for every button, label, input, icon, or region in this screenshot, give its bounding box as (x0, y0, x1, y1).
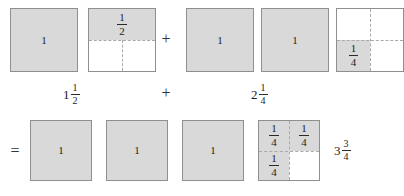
addend-2-whole: 2 (251, 88, 258, 101)
row2-square-4-shading-bottom-left (259, 151, 289, 181)
addend-1-whole: 1 (63, 88, 70, 101)
row1-square-5-shading (337, 40, 370, 71)
row1-square-4-shading (262, 9, 328, 71)
equals-operator: = (8, 144, 22, 158)
row2-square-4: 1 4 1 4 1 4 (258, 120, 320, 181)
addend-1-fraction: 1 2 (71, 83, 80, 106)
row2-square-2: 1 (106, 120, 168, 181)
row2-square-1: 1 (30, 120, 92, 181)
row1-square-1: 1 (10, 8, 78, 72)
row1-square-2: 1 2 (88, 8, 156, 72)
row1-square-5: 1 4 (336, 8, 404, 72)
addend-one-and-one-half: 1 1 2 (63, 83, 80, 106)
row1-square-1-shading (11, 9, 77, 71)
sum-whole: 3 (334, 144, 341, 157)
row1-square-2-vertical-divider (122, 40, 123, 71)
sum-fraction: 3 4 (342, 139, 351, 162)
row1-square-3-shading (187, 9, 253, 71)
row1-square-3: 1 (186, 8, 254, 72)
row1-plus-operator: + (159, 32, 173, 46)
middle-plus-operator: + (159, 86, 173, 100)
row2-square-4-shading-top-right (289, 121, 319, 151)
sum-three-and-three-quarters: 3 3 4 (334, 139, 351, 162)
row2-square-1-shading (31, 121, 91, 180)
row2-square-4-vertical-divider (289, 121, 290, 180)
row2-square-4-shading-top-left (259, 121, 289, 151)
addend-2-fraction: 1 4 (259, 83, 268, 106)
row2-square-2-shading (107, 121, 167, 180)
row2-square-3: 1 (182, 120, 244, 181)
row1-square-2-shading (89, 9, 155, 40)
row1-square-5-vertical-divider (370, 9, 371, 71)
addend-two-and-one-quarter: 2 1 4 (251, 83, 268, 106)
row2-square-3-shading (183, 121, 243, 180)
row1-square-4: 1 (261, 8, 329, 72)
